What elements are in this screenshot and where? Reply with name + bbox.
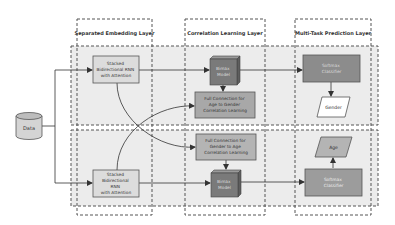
data-store: Data	[16, 113, 42, 140]
bimax-bottom-line2: Model	[218, 185, 231, 190]
svg-text:Bimax Model: Bimax Model	[216, 66, 231, 77]
svg-text:Softmax Classifier: Softmax Classifier	[324, 177, 344, 188]
correlation-layer-title: Correlation Learning Layer	[187, 30, 263, 37]
softmax-bottom-line1: Softmax	[324, 177, 342, 182]
softmax-bottom-box: Softmax Classifier	[305, 169, 362, 196]
rnn-top-box: Stacked Bidirectional RNN with Attention	[93, 56, 139, 83]
bimax-top-model: Bimax Model	[210, 56, 240, 85]
fc-bottom-line3: Correlation Learning	[204, 150, 248, 155]
data-label: Data	[23, 125, 35, 131]
fc-top-box: Full Connection for Age to Gender Correl…	[195, 92, 255, 118]
fc-top-line1: Full Connection for	[204, 96, 245, 101]
bimax-bottom-model: Bimax Model	[211, 170, 241, 197]
fc-bottom-box: Full Connection for Gender to Age Correl…	[196, 134, 256, 160]
rnn-bottom-line1: Stacked	[107, 172, 124, 177]
architecture-diagram: Separated Embedding Layer Correlation Le…	[0, 0, 395, 225]
bimax-bottom-line1: Bimax	[217, 179, 231, 184]
rnn-top-line2: Bidirectional RNN	[97, 67, 135, 72]
fc-top-line2: Age to Gender	[209, 102, 240, 107]
softmax-top-box: Softmax Classifier	[303, 55, 360, 82]
rnn-bottom-box: Stacked Bidirectional RNN with Attention	[93, 170, 139, 197]
gender-output: Gender	[317, 97, 350, 117]
svg-text:Bimax Model: Bimax Model	[217, 179, 232, 190]
rnn-bottom-line2: Bidirectional	[102, 178, 129, 183]
softmax-top-line2: Classifier	[322, 69, 342, 74]
softmax-bottom-line2: Classifier	[324, 183, 344, 188]
fc-bottom-line1: Full Connection for	[205, 138, 246, 143]
bimax-top-line2: Model	[217, 72, 230, 77]
gender-label: Gender	[325, 105, 342, 110]
rnn-top-line1: Stacked	[107, 61, 124, 66]
softmax-top-line1: Softmax	[322, 63, 340, 68]
rnn-bottom-line3: RNN	[111, 184, 120, 189]
age-output: Age	[315, 137, 352, 157]
bimax-top-line1: Bimax	[216, 66, 230, 71]
prediction-layer-title: Multi-Task Prediction Layer	[295, 30, 372, 37]
svg-text:Softmax Classifier: Softmax Classifier	[322, 63, 342, 74]
fc-bottom-line2: Gender to Age	[210, 144, 242, 149]
rnn-top-line3: with Attention	[101, 73, 132, 78]
age-label: Age	[329, 145, 338, 150]
embedding-layer-title: Separated Embedding Layer	[75, 30, 155, 37]
fc-top-line3: Correlation Learning	[203, 108, 247, 113]
svg-text:Full Connection for Gend: Full Connection for Gender to Age Correl…	[204, 138, 248, 155]
svg-text:Full Connection for Age: Full Connection for Age to Gender Correl…	[203, 96, 247, 113]
rnn-bottom-line4: with Attention	[101, 190, 132, 195]
